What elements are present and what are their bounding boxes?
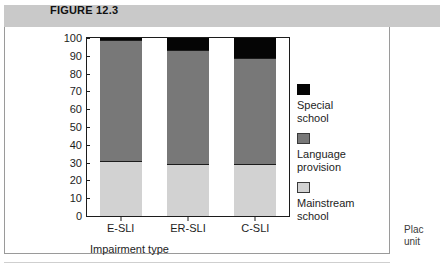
bar-segment[interactable] [234, 58, 276, 165]
figure-root: FIGURE 12.3 1009080706050403020100 E-SLI… [0, 0, 444, 268]
legend-entry[interactable]: Language provision [297, 133, 379, 173]
bar-group[interactable] [167, 38, 209, 216]
x-axis-tick-mark [120, 217, 121, 221]
legend-label: Language provision [297, 148, 379, 173]
bar-segment[interactable] [234, 164, 276, 216]
y-axis-tick-label: 30 [70, 157, 82, 169]
y-axis-tick-label: 0 [76, 210, 82, 222]
bar-segment[interactable] [167, 50, 209, 164]
legend-label: Mainstream school [297, 197, 379, 222]
bottom-divider [4, 262, 390, 263]
y-axis-tick-label: 90 [70, 50, 82, 62]
bar-segment[interactable] [167, 38, 209, 50]
y-axis-tick-mark [86, 216, 90, 217]
legend-swatch-icon [297, 84, 310, 95]
y-axis: 1009080706050403020100 [56, 30, 86, 224]
bars-layer [87, 38, 289, 216]
y-axis-tick-label: 50 [70, 121, 82, 133]
y-axis-tick-label: 80 [70, 68, 82, 80]
figure-number-label: FIGURE 12.3 [50, 4, 118, 16]
legend-label: Special school [297, 99, 379, 124]
y-axis-tick-label: 70 [70, 85, 82, 97]
y-axis-tick-label: 40 [70, 139, 82, 151]
side-caption-text: Plac unit [404, 224, 444, 248]
bar-group[interactable] [100, 38, 142, 216]
y-axis-tick-label: 100 [64, 32, 82, 44]
legend-entry[interactable]: Mainstream school [297, 182, 379, 222]
x-axis-tick-mark [255, 217, 256, 221]
bar-segment[interactable] [167, 164, 209, 216]
bar-group[interactable] [234, 38, 276, 216]
x-axis-tick-mark [188, 217, 189, 221]
chart-legend: Special schoolLanguage provisionMainstre… [297, 84, 379, 231]
x-axis-category-label: ER-SLI [170, 222, 205, 234]
bar-segment[interactable] [100, 40, 142, 161]
x-axis-title: Impairment type [90, 243, 169, 255]
bar-segment[interactable] [100, 161, 142, 216]
legend-swatch-icon [297, 133, 310, 144]
y-axis-tick-label: 20 [70, 174, 82, 186]
x-axis-category-label: E-SLI [107, 222, 135, 234]
legend-swatch-icon [297, 182, 310, 193]
y-axis-tick-label: 10 [70, 192, 82, 204]
bar-segment[interactable] [100, 38, 142, 40]
bar-segment[interactable] [234, 38, 276, 58]
y-axis-tick-label: 60 [70, 103, 82, 115]
x-axis-category-label: C-SLI [241, 222, 269, 234]
legend-entry[interactable]: Special school [297, 84, 379, 124]
